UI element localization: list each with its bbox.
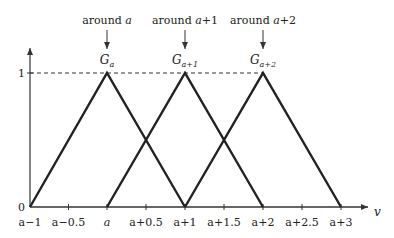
x-tick-label: a−1 xyxy=(19,216,42,229)
y-tick-label-1: 1 xyxy=(18,67,25,80)
x-tick-label: a+2.5 xyxy=(285,216,318,229)
x-tick-label: a+3 xyxy=(330,216,353,229)
annotation-around-a: around a xyxy=(82,14,132,27)
x-tick-label: a+2 xyxy=(252,216,275,229)
x-axis-label: v xyxy=(374,205,381,219)
y-tick-label-0: 0 xyxy=(18,201,25,214)
triangle-G-a-plus-1 xyxy=(107,73,263,207)
x-tick-label: a+1.5 xyxy=(207,216,240,229)
x-tick-label: a+0.5 xyxy=(129,216,162,229)
label-G-a-plus-2: Ga+2 xyxy=(250,53,276,69)
label-G-a: Ga xyxy=(100,53,115,69)
x-tick-label: a−0.5 xyxy=(52,216,85,229)
annotation-around-a-plus-1: around a+1 xyxy=(152,14,218,27)
label-G-a-plus-1: Ga+1 xyxy=(172,53,198,69)
triangle-G-a xyxy=(30,73,185,207)
x-tick-label: a+1 xyxy=(174,216,197,229)
membership-function-diagram: 1 0 a−1 a−0.5 a a+0.5 a+1 a+1.5 a+2 a+2.… xyxy=(0,0,394,238)
triangle-G-a-plus-2 xyxy=(185,73,341,207)
x-tick-label: a xyxy=(104,216,111,229)
annotation-around-a-plus-2: around a+2 xyxy=(230,14,296,27)
